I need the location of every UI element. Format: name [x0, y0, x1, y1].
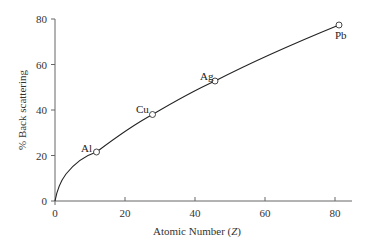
point-label-al: Al	[81, 142, 92, 154]
x-ticks: 0 20 40 60 80	[52, 197, 341, 219]
x-tick-label: 40	[190, 207, 202, 219]
point-label-ag: Ag	[200, 70, 214, 82]
y-tick-label: 80	[36, 13, 48, 25]
x-axis-label: Atomic Number (Z)	[153, 225, 241, 238]
y-axis-label: % Back scattering	[16, 69, 28, 150]
point-cu	[150, 112, 156, 118]
y-tick-label: 20	[36, 150, 48, 162]
point-label-pb: Pb	[335, 29, 347, 41]
data-points: Al Cu Ag Pb	[81, 22, 347, 155]
point-pb	[336, 22, 342, 28]
y-tick-label: 40	[36, 104, 48, 116]
chart: 0 20 40 60 80 0 20 40 60 80 Atomic Numbe…	[0, 0, 371, 246]
data-curve	[55, 25, 339, 201]
x-tick-label: 20	[120, 207, 132, 219]
x-tick-label: 80	[330, 207, 342, 219]
x-tick-label: 60	[260, 207, 272, 219]
point-al	[94, 149, 100, 155]
y-tick-label: 60	[36, 59, 48, 71]
y-tick-label: 0	[42, 195, 48, 207]
point-label-cu: Cu	[136, 103, 149, 115]
x-tick-label: 0	[52, 207, 58, 219]
y-ticks: 0 20 40 60 80	[36, 13, 55, 207]
